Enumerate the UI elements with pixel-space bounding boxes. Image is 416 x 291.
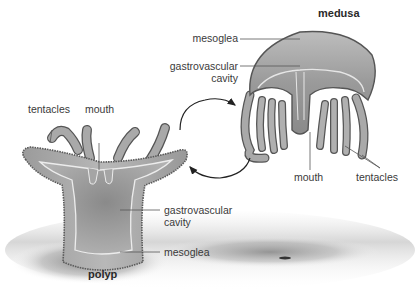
life-cycle-arrows [180, 99, 250, 178]
polyp-label-mesoglea: mesoglea [164, 247, 210, 258]
medusa-title: medusa [318, 7, 360, 19]
medusa-label-tentacles: tentacles [356, 172, 398, 183]
polyp-label-cavity: cavity [164, 217, 191, 228]
diagram-canvas: medusa mesoglea gastrovascular cavity mo… [0, 0, 416, 291]
polyp-label-mouth: mouth [85, 104, 114, 115]
medusa-label-mesoglea: mesoglea [184, 33, 238, 44]
polyp-title: polyp [88, 268, 117, 280]
medusa-label-gastrovascular: gastrovascular [160, 61, 238, 72]
polyp-label-tentacles: tentacles [28, 104, 70, 115]
medusa-label-cavity: cavity [160, 73, 238, 84]
polyp-label-gastrovascular: gastrovascular [164, 205, 232, 216]
medusa-label-mouth: mouth [294, 172, 323, 183]
